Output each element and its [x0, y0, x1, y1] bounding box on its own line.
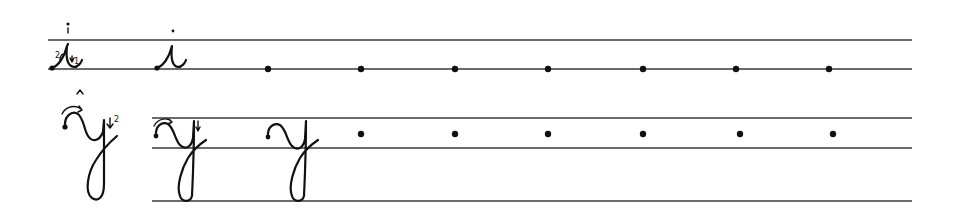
- i-dot-icon: [172, 30, 175, 33]
- practice-dot[interactable]: [358, 66, 364, 72]
- down-arrow-icon: [107, 118, 113, 128]
- practice-dot[interactable]: [452, 66, 458, 72]
- practice-dot[interactable]: [545, 66, 551, 72]
- practice-dot[interactable]: [830, 131, 836, 137]
- stroke-number-label: 1: [74, 57, 79, 66]
- letter-i-stroke: [157, 46, 186, 68]
- practice-dot[interactable]: [640, 66, 646, 72]
- up-caret-icon: [77, 90, 83, 94]
- stroke-number-label: 2: [55, 51, 60, 60]
- worksheet-canvas: 2 1: [0, 0, 954, 217]
- practice-dot[interactable]: [265, 66, 271, 72]
- down-arrow-icon: [196, 121, 200, 131]
- practice-dot[interactable]: [733, 66, 739, 72]
- letter-y-stroke-guide-lined: [154, 119, 206, 201]
- practice-dot[interactable]: [545, 131, 551, 137]
- handwriting-worksheet: 2 1: [0, 0, 954, 217]
- stroke-number-label: 2: [114, 115, 119, 124]
- row-y-practice-dots: [358, 131, 836, 137]
- row-i-guide-lines: [48, 40, 912, 69]
- i-dot-icon: [66, 22, 69, 25]
- letter-y-stroke: [156, 121, 206, 201]
- practice-dot[interactable]: [826, 66, 832, 72]
- letter-y-example: [266, 121, 318, 201]
- letter-i-example: [154, 30, 186, 71]
- practice-dot[interactable]: [452, 131, 458, 137]
- practice-dot[interactable]: [737, 131, 743, 137]
- practice-dot[interactable]: [640, 131, 646, 137]
- letter-y-stroke-guide-large: 2: [62, 90, 119, 199]
- letter-i-stroke-guide: 2 1: [49, 22, 82, 70]
- practice-dot[interactable]: [358, 131, 364, 137]
- row-y-guide-lines: [152, 118, 912, 201]
- letter-y-stroke: [268, 121, 318, 201]
